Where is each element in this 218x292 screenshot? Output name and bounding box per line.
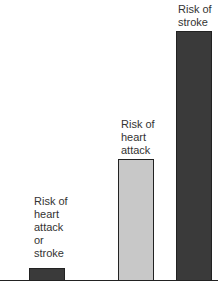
bar-heart-attack	[118, 159, 154, 281]
label-line: heart	[121, 131, 155, 144]
label-stroke: Risk of stroke	[178, 3, 212, 29]
label-line: Risk of	[178, 3, 212, 16]
label-line: heart	[34, 208, 68, 221]
label-heart-attack: Risk of heart attack	[121, 118, 155, 157]
label-line: Risk of	[121, 118, 155, 131]
label-heart-attack-or-stroke: Risk of heart attack or stroke	[34, 195, 68, 260]
label-line: stroke	[178, 16, 212, 29]
label-line: attack	[121, 144, 155, 157]
label-line: attack	[34, 221, 68, 234]
x-axis-baseline	[0, 280, 218, 281]
label-line: Risk of	[34, 195, 68, 208]
label-line: or	[34, 234, 68, 247]
label-line: stroke	[34, 247, 68, 260]
bar-stroke	[176, 31, 212, 281]
